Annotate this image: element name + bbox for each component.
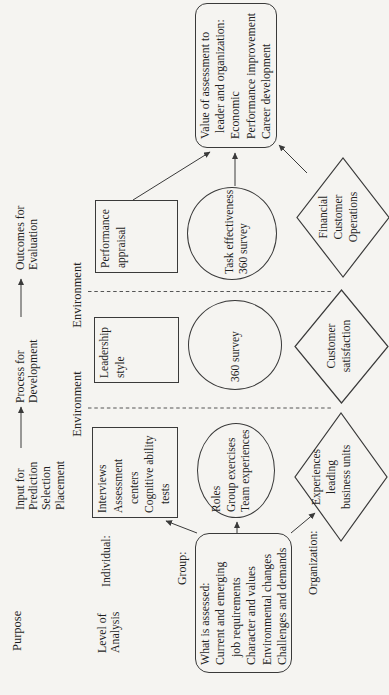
organization-row-label: Organization: (307, 530, 320, 595)
environment-label-left: Environment (71, 354, 84, 454)
what-assessed-box-text: What is assessed: Current and emerging j… (196, 534, 290, 672)
experiences-diamond-label: Experiences leading business units (309, 417, 354, 537)
outcomes-header: Outcomes for Evaluation (14, 205, 40, 270)
environment-label-right: Environment (71, 245, 84, 345)
input-header-line: Placement (54, 461, 67, 510)
purpose-label: Purpose (11, 611, 24, 651)
value-box-text: Value of assessment to leader and organi… (196, 4, 274, 147)
roles-ellipse-text: Roles Group exercises Team experiences (198, 424, 274, 517)
level-of-analysis-label: Level of Analysis (96, 612, 122, 653)
performance-rect: Performance appraisal (95, 200, 178, 273)
arrow-financial-to-value (279, 145, 307, 173)
individual-row-label: Individual: (100, 535, 113, 587)
value-box: Value of assessment to leader and organi… (195, 3, 277, 148)
performance-rect-text: Performance appraisal (98, 209, 130, 268)
outcomes-header-line: Evaluation (27, 205, 40, 270)
survey360-ellipse: 360 survey (188, 300, 282, 390)
interviews-rect-text: Interviews Assessment centers Cognitive … (95, 435, 174, 513)
input-header: Input for Prediction Selection Placement (14, 461, 67, 510)
process-header: Process for Development (14, 339, 40, 403)
roles-ellipse: Roles Group exercises Team experiences (197, 423, 275, 518)
group-row-label: Group: (176, 552, 189, 585)
customer-diamond-label: Customer satisfaction (324, 286, 354, 406)
interviews-rect: Interviews Assessment centers Cognitive … (92, 427, 178, 518)
process-header-line: Development (27, 339, 40, 403)
task-ellipse-text: Task effectiveness 360 survey (188, 188, 276, 279)
what-assessed-box: What is assessed: Current and emerging j… (195, 533, 292, 673)
figure-page: Purpose Input for Prediction Selection P… (0, 0, 389, 695)
survey360-ellipse-text: 360 survey (189, 301, 281, 389)
input-header-line: Selection (40, 461, 53, 510)
leadership-rect-text: Leadership style (97, 327, 129, 378)
diagram-rotated-canvas: Purpose Input for Prediction Selection P… (0, 0, 389, 695)
leadership-rect: Leadership style (94, 317, 179, 383)
arrow-what-to-interviews (166, 521, 197, 533)
task-ellipse: Task effectiveness 360 survey (187, 187, 277, 280)
financial-diamond-label: Financial Customer Operations (316, 157, 361, 277)
